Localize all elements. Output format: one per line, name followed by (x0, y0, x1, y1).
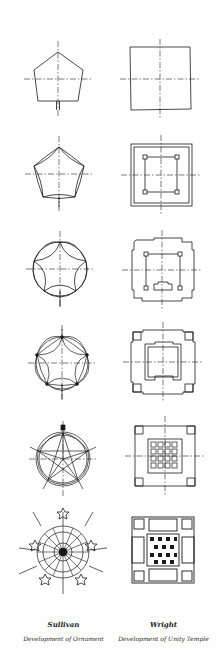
sullivan-stage-3 (26, 231, 94, 307)
caption-subtitle: Development of Ornament (8, 635, 119, 642)
caption-author: Sullivan (8, 620, 119, 629)
sullivan-stage-1 (24, 41, 92, 117)
caption-subtitle: Development of Unity Temple (108, 635, 219, 642)
wright-stage-4 (123, 322, 203, 402)
sullivan-stage-6 (19, 508, 107, 594)
caption-sullivan: Sullivan Development of Ornament (8, 620, 119, 642)
sullivan-stage-5 (29, 421, 97, 497)
wright-stage-5 (125, 416, 205, 496)
wright-stage-3 (122, 230, 202, 310)
wright-stage-2 (121, 135, 201, 215)
wright-stage-1 (120, 39, 200, 119)
sullivan-stage-2 (25, 136, 93, 212)
caption-author: Wright (108, 620, 219, 629)
caption-wright: Wright Development of Unity Temple (108, 620, 219, 642)
sketch-diagram (0, 0, 222, 651)
wright-stage-6 (132, 517, 194, 583)
sullivan-stage-4 (28, 325, 96, 401)
